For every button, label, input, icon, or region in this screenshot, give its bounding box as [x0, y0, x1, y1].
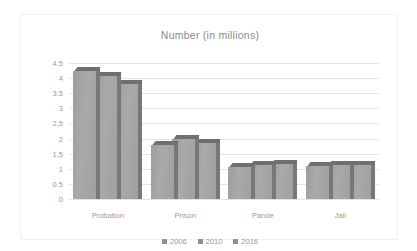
bar-front-face: [228, 167, 251, 199]
y-axis-tick-label: 4: [33, 74, 63, 83]
x-axis-label-jail: Jail: [335, 211, 346, 220]
bar-top-face: [307, 162, 333, 166]
bar-side-face: [138, 84, 142, 199]
legend-swatch-icon: [233, 239, 238, 244]
chart-container: Number (in millions) 4.543.532.521.510.5…: [20, 14, 398, 240]
x-axis-category-labels: ProbationPrisonParoleJail: [69, 211, 379, 225]
bar-front-face: [151, 145, 174, 199]
legend-swatch-icon: [162, 239, 167, 244]
bar-side-face: [216, 143, 220, 200]
bar-top-face: [75, 67, 101, 71]
y-axis-tick-label: 2: [33, 134, 63, 143]
x-axis-label-parole: Parole: [252, 211, 274, 220]
legend-label: 2016: [241, 237, 258, 246]
bar-front-face: [73, 71, 96, 199]
bar-jail-2006[interactable]: [306, 166, 329, 199]
chart-title: Number (in millions): [21, 29, 399, 41]
legend-item-2010[interactable]: 2010: [198, 237, 223, 246]
legend-item-2016[interactable]: 2016: [233, 237, 258, 246]
y-axis-tick-label: 1: [33, 164, 63, 173]
chart-legend: 200620102016: [21, 237, 399, 246]
gridline: [69, 199, 379, 200]
bar-group: [228, 63, 297, 199]
y-axis-tick-label: 3: [33, 104, 63, 113]
bar-side-face: [251, 167, 255, 199]
bar-group: [73, 63, 142, 199]
y-axis-tick-label: 3.5: [33, 89, 63, 98]
x-axis-label-probation: Probation: [92, 211, 124, 220]
bar-side-face: [293, 164, 297, 199]
bar-group: [151, 63, 220, 199]
bar-side-face: [117, 76, 121, 199]
legend-swatch-icon: [198, 239, 203, 244]
legend-label: 2010: [206, 237, 223, 246]
bar-top-face: [173, 135, 199, 139]
bar-series-area: [69, 63, 379, 199]
bar-top-face: [230, 163, 256, 167]
bar-probation-2006[interactable]: [73, 71, 96, 199]
legend-item-2006[interactable]: 2006: [162, 237, 187, 246]
y-axis-tick-label: 0: [33, 195, 63, 204]
bar-side-face: [371, 165, 375, 199]
bar-side-face: [195, 139, 199, 199]
legend-label: 2006: [170, 237, 187, 246]
bar-side-face: [272, 165, 276, 199]
bar-group: [306, 63, 375, 199]
y-axis-tick-label: 2.5: [33, 119, 63, 128]
y-axis-tick-label: 0.5: [33, 179, 63, 188]
x-axis-label-prison: Prison: [175, 211, 196, 220]
bar-top-face: [152, 141, 178, 145]
bar-prison-2006[interactable]: [151, 145, 174, 199]
bar-side-face: [350, 165, 354, 199]
plot-area: 4.543.532.521.510.50: [69, 63, 379, 199]
y-axis-tick-label: 1.5: [33, 149, 63, 158]
y-axis-tick-label: 4.5: [33, 59, 63, 68]
bar-front-face: [306, 166, 329, 199]
bar-side-face: [329, 166, 333, 199]
bar-side-face: [174, 145, 178, 199]
bar-parole-2006[interactable]: [228, 167, 251, 199]
bar-side-face: [96, 71, 100, 199]
